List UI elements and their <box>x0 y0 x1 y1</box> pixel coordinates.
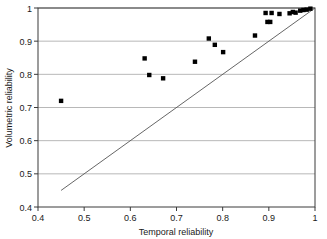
y-tick-label: 0.7 <box>19 103 32 113</box>
data-point <box>142 56 146 60</box>
y-tick-label: 0.4 <box>19 203 32 213</box>
y-axis-title: Volumetric reliability <box>4 68 14 148</box>
data-point <box>213 43 217 47</box>
data-point <box>59 99 63 103</box>
y-tick-label: 0.5 <box>19 169 32 179</box>
x-tick-label: 0.9 <box>263 213 276 223</box>
y-axis-tick-labels: 0.40.50.60.70.80.91 <box>19 4 32 213</box>
scatter-chart: 0.40.50.60.70.80.91 0.40.50.60.70.80.91 … <box>0 0 327 239</box>
x-tick-label: 0.5 <box>78 213 91 223</box>
data-point <box>253 33 257 37</box>
data-point <box>268 20 272 24</box>
y-tick-label: 0.9 <box>19 37 32 47</box>
x-axis-title: Temporal reliability <box>139 227 214 237</box>
x-tick-label: 0.8 <box>216 213 229 223</box>
chart-svg: 0.40.50.60.70.80.91 0.40.50.60.70.80.91 … <box>0 0 327 239</box>
x-tick-label: 1 <box>312 213 317 223</box>
x-axis-tick-labels: 0.40.50.60.70.80.91 <box>32 213 318 223</box>
y-tick-label: 0.8 <box>19 70 32 80</box>
data-point <box>161 76 165 80</box>
x-tick-label: 0.4 <box>32 213 45 223</box>
x-tick-label: 0.7 <box>170 213 183 223</box>
data-point <box>221 50 225 54</box>
data-point <box>308 6 312 10</box>
data-point <box>269 11 273 15</box>
y-tick-label: 1 <box>27 4 32 14</box>
x-tick-label: 0.6 <box>124 213 137 223</box>
data-point <box>277 12 281 16</box>
data-point <box>147 73 151 77</box>
y-tick-label: 0.6 <box>19 136 32 146</box>
data-point <box>293 10 297 14</box>
x-axis-ticks <box>38 207 315 211</box>
data-point <box>263 11 267 15</box>
data-point <box>207 36 211 40</box>
data-point <box>193 60 197 64</box>
y-axis-ticks <box>34 8 38 207</box>
